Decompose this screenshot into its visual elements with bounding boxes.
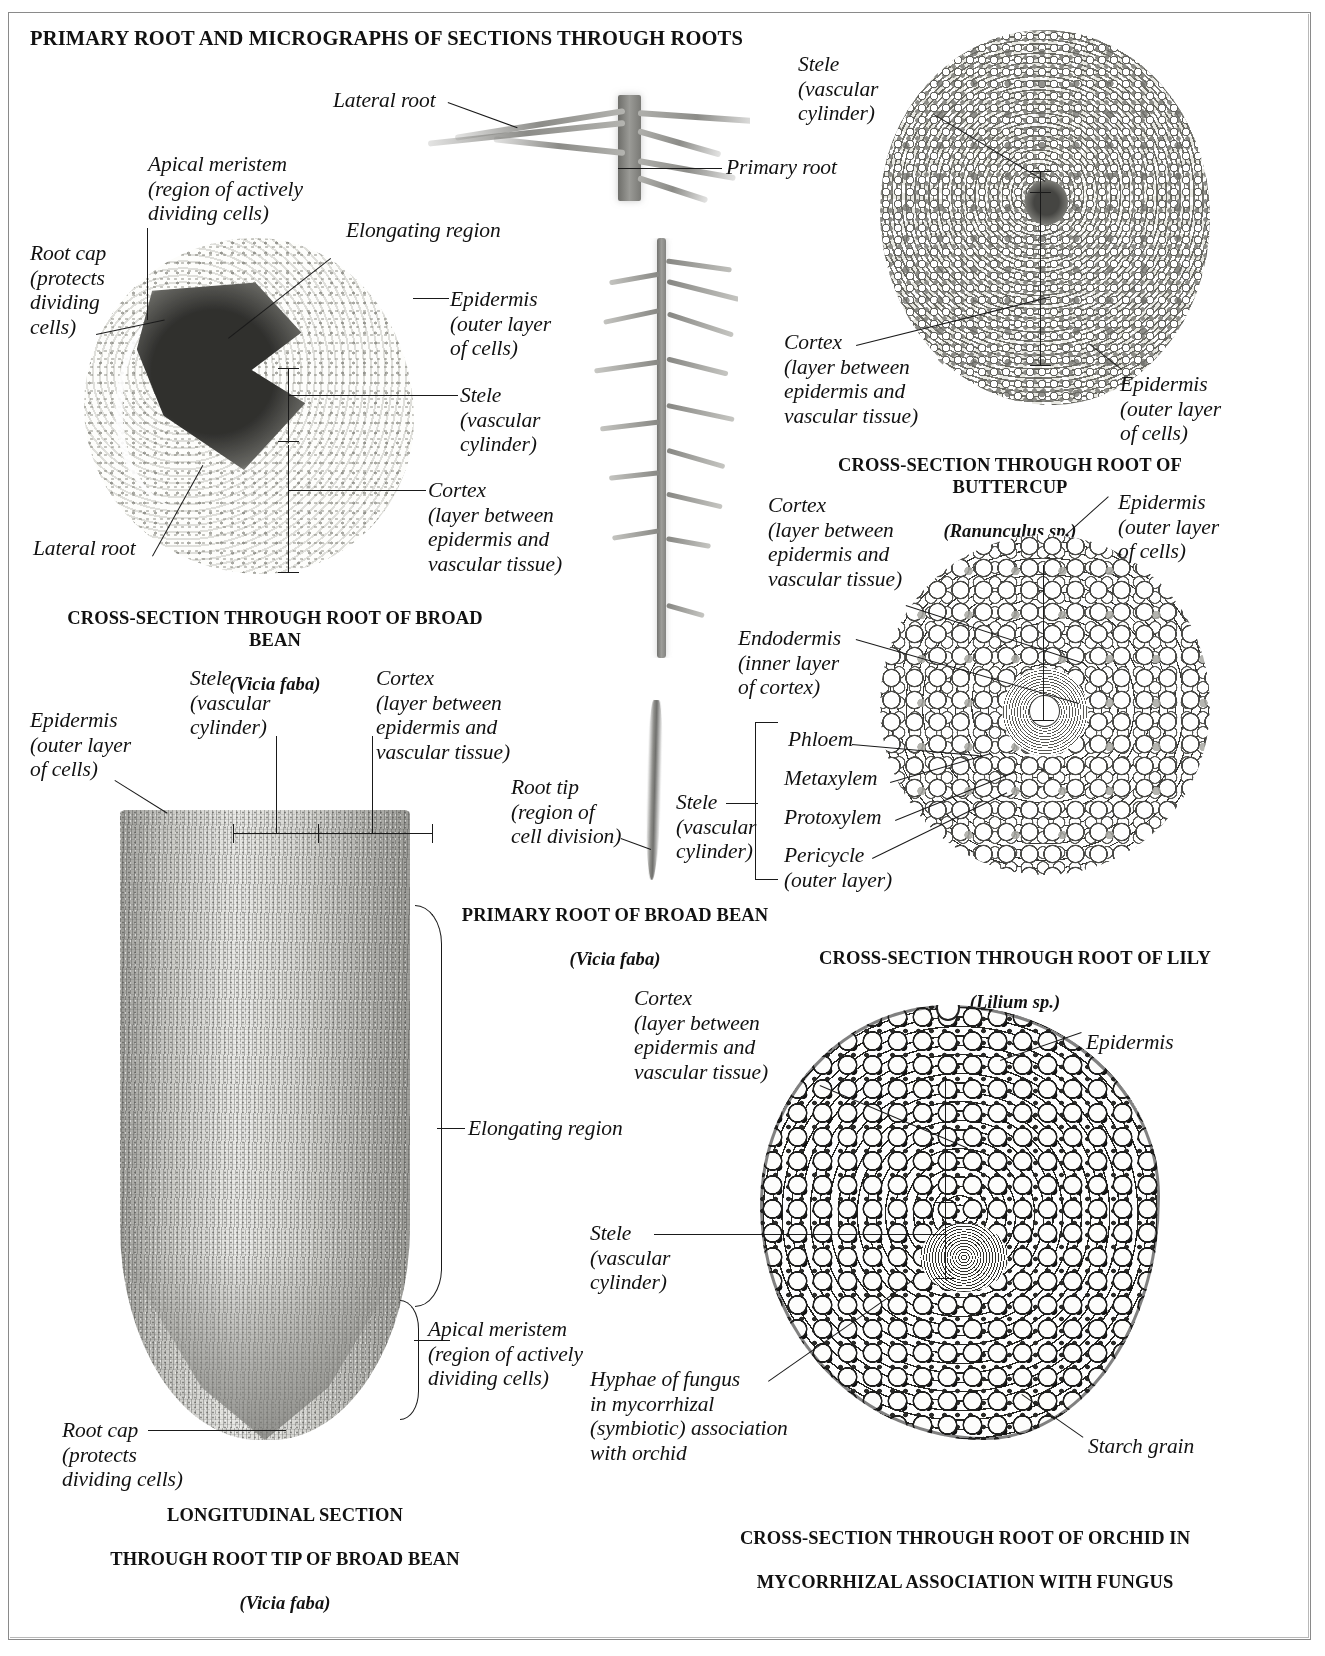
root-hair — [666, 537, 711, 549]
root-hair — [594, 359, 660, 373]
lateral-root-strand — [638, 110, 750, 124]
lateral-root-strand — [637, 128, 721, 157]
label-cortex-buttercup: Cortex (layer between epidermis and vasc… — [784, 330, 918, 428]
measure-bar — [288, 445, 289, 573]
label-cortex-ls: Cortex (layer between epidermis and vasc… — [376, 666, 510, 764]
root-hair — [612, 528, 660, 540]
measure-cap — [432, 824, 433, 843]
primary-root-photograph — [420, 85, 750, 210]
label-stele-lily: Stele (vascular cylinder) — [676, 790, 756, 864]
measure-cap — [278, 368, 299, 369]
label-epidermis-lily: Epidermis (outer layer of cells) — [1118, 490, 1219, 564]
leader-line — [148, 1430, 286, 1431]
label-root-cap-bb: Root cap (protects dividing cells) — [30, 241, 106, 339]
measure-bar — [945, 1076, 946, 1280]
label-lateral-root-bb: Lateral root — [33, 536, 136, 561]
root-hair — [666, 356, 728, 376]
measure-cap — [233, 824, 234, 843]
label-starch-grain-orchid: Starch grain — [1088, 1434, 1194, 1459]
leader-line — [413, 298, 449, 299]
label-stele-bb: Stele (vascular cylinder) — [460, 383, 540, 457]
leader-line — [288, 395, 458, 396]
label-lateral-root-top: Lateral root — [333, 88, 436, 113]
label-primary-root-top: Primary root — [726, 155, 837, 180]
label-elongating-region-bb: Elongating region — [346, 218, 501, 243]
leader-line — [288, 490, 426, 491]
stele-bracket-lily — [755, 722, 778, 880]
measure-cap — [1033, 720, 1054, 721]
label-stele-ls: Stele (vascular cylinder) — [190, 666, 270, 740]
measure-cap — [935, 1278, 956, 1279]
label-pericycle-lily: Pericycle (outer layer) — [784, 843, 892, 892]
measure-bar — [233, 833, 433, 834]
measure-cap — [1030, 192, 1051, 193]
root-hair — [666, 259, 732, 273]
measure-cap — [278, 441, 299, 442]
lily-cross-section-micrograph — [880, 535, 1210, 875]
label-metaxylem-lily: Metaxylem — [784, 766, 877, 791]
root-hair — [667, 311, 734, 337]
lateral-root-strand — [493, 136, 625, 156]
measure-bar — [288, 368, 289, 443]
stele-core — [1025, 180, 1068, 225]
label-hyphae-orchid: Hyphae of fungus in mycorrhizal (symbiot… — [590, 1367, 788, 1465]
label-elongating-region-ls: Elongating region — [468, 1116, 623, 1141]
root-stem — [657, 238, 666, 658]
label-apical-meristem-ls: Apical meristem (region of actively divi… — [428, 1317, 583, 1391]
measure-cap — [1030, 365, 1051, 366]
leader-line — [618, 168, 722, 169]
leader-line — [726, 803, 758, 804]
elongating-region-brace — [415, 905, 442, 1307]
label-epidermis-ls: Epidermis (outer layer of cells) — [30, 708, 131, 782]
orchid-cross-section-micrograph — [760, 1005, 1160, 1440]
label-cortex-lily: Cortex (layer between epidermis and vasc… — [768, 493, 902, 591]
root-hair — [666, 403, 734, 422]
leader-line — [654, 1234, 946, 1235]
measure-cap — [1030, 171, 1051, 172]
label-stele-orchid: Stele (vascular cylinder) — [590, 1221, 670, 1295]
label-endodermis-lily: Endodermis (inner layer of cortex) — [738, 626, 841, 700]
longitudinal-section-micrograph — [120, 810, 410, 1440]
leader-line — [276, 736, 277, 833]
measure-bar — [1043, 565, 1044, 721]
measure-cap — [935, 1202, 956, 1203]
label-stele-buttercup: Stele (vascular cylinder) — [798, 52, 878, 126]
caption-lily-cs: CROSS-SECTION THROUGH ROOT OF LILY (Lili… — [790, 925, 1240, 1013]
caption-primary-root-broad-bean: PRIMARY ROOT OF BROAD BEAN (Vicia faba) — [455, 882, 775, 970]
caption-longitudinal-section: LONGITUDINAL SECTION THROUGH ROOT TIP OF… — [45, 1482, 525, 1614]
label-epidermis-orchid: Epidermis — [1086, 1030, 1173, 1055]
label-cortex-orchid: Cortex (layer between epidermis and vasc… — [634, 986, 768, 1084]
leader-line — [147, 228, 148, 320]
lateral-root-strand — [637, 175, 708, 203]
label-epidermis-bb: Epidermis (outer layer of cells) — [450, 287, 551, 361]
page-title: PRIMARY ROOT AND MICROGRAPHS OF SECTIONS… — [30, 27, 743, 50]
page-root: PRIMARY ROOT AND MICROGRAPHS OF SECTIONS… — [0, 0, 1325, 1656]
label-root-tip: Root tip (region of cell division) — [511, 775, 621, 849]
root-hair — [667, 279, 738, 302]
label-protoxylem-lily: Protoxylem — [784, 805, 881, 830]
epidermis-rim — [760, 1005, 1160, 1440]
root-hair — [666, 492, 723, 509]
root-hair — [609, 271, 660, 284]
buttercup-cross-section-micrograph — [880, 30, 1210, 405]
broad-bean-cross-section-micrograph — [84, 238, 414, 574]
label-phloem-lily: Phloem — [788, 727, 853, 752]
label-cortex-bb: Cortex (layer between epidermis and vasc… — [428, 478, 562, 576]
measure-bar — [1040, 171, 1041, 366]
root-hair — [666, 602, 705, 617]
root-hair — [600, 419, 660, 431]
root-hair — [609, 471, 660, 481]
caption-orchid-cs: CROSS-SECTION THROUGH ROOT OF ORCHID IN … — [700, 1505, 1230, 1593]
label-apical-meristem-bb: Apical meristem (region of actively divi… — [148, 152, 303, 226]
lateral-rooted-root-photograph — [588, 238, 738, 658]
root-hair — [603, 308, 660, 324]
leader-line — [437, 1128, 465, 1129]
measure-cap — [318, 824, 319, 843]
leader-line — [372, 736, 373, 833]
measure-cap — [278, 572, 299, 573]
apical-meristem-brace — [400, 1300, 419, 1420]
root-hair — [667, 448, 726, 469]
